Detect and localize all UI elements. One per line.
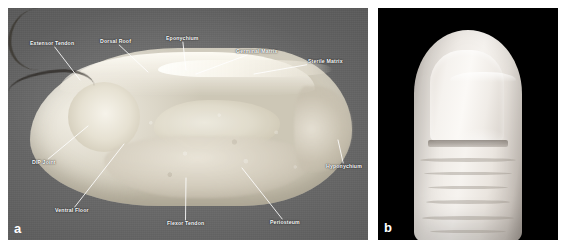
label-dorsal-roof: Dorsal Roof <box>100 39 131 44</box>
label-germinal-matrix: Germinal Matrix <box>236 49 277 54</box>
eponychium-fold <box>428 140 508 147</box>
skin-crease <box>426 200 510 204</box>
fingertip <box>414 30 522 240</box>
panel-letter-b: b <box>384 221 392 234</box>
specimen-nail-matrix-band <box>158 60 333 77</box>
label-ventral-floor: Ventral Floor <box>55 208 89 213</box>
label-dip-joint: DIP Joint <box>32 160 56 165</box>
label-eponychium: Eponychium <box>166 36 199 41</box>
skin-crease <box>424 172 512 175</box>
label-flexor-tendon: Flexor Tendon <box>167 221 204 226</box>
nail-plate <box>430 50 504 142</box>
label-hyponychium: Hyponychium <box>326 164 362 169</box>
panel-a-cross-section: Extensor Tendon Dorsal Roof Eponychium G… <box>8 8 368 240</box>
figure-container: Extensor Tendon Dorsal Roof Eponychium G… <box>0 0 565 248</box>
panel-letter-a: a <box>14 222 21 235</box>
label-periosteum: Periosteum <box>270 220 300 225</box>
label-extensor-tendon: Extensor Tendon <box>30 41 74 46</box>
skin-crease <box>430 230 506 233</box>
specimen-trabecular-texture <box>128 94 318 190</box>
skin-crease <box>422 216 514 220</box>
distal-nail-edge <box>450 72 516 82</box>
label-sterile-matrix: Sterile Matrix <box>308 59 343 64</box>
skin-crease <box>428 186 508 189</box>
panel-b-fingertip-photo: b <box>378 8 558 240</box>
skin-crease <box>420 158 516 162</box>
